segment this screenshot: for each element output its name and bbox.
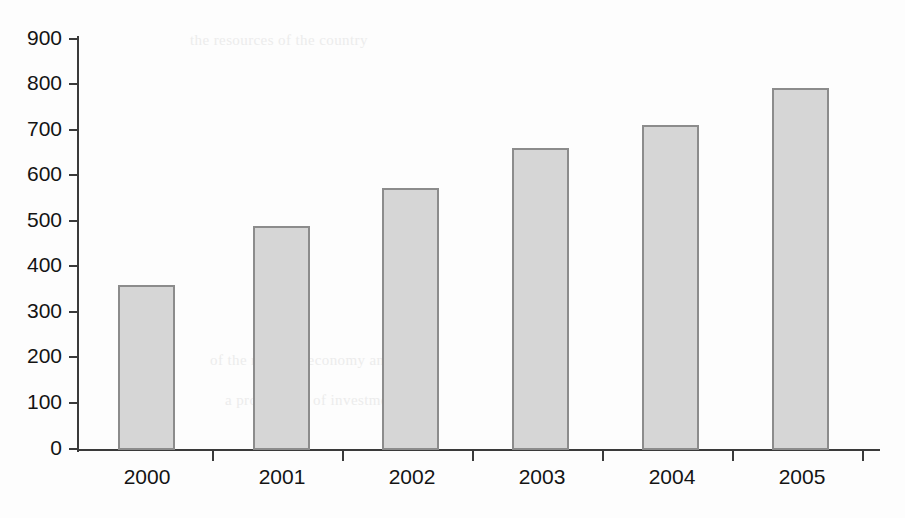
y-axis-tick: 400	[69, 265, 78, 267]
y-axis-tick-label: 100	[27, 391, 62, 412]
x-axis-label-2004: 2004	[642, 466, 702, 488]
bar-2001	[253, 226, 310, 450]
bar-chart-figure: the resources of the country of the regi…	[0, 0, 905, 518]
x-axis-label-2005: 2005	[772, 466, 832, 488]
y-axis-tick-label: 900	[27, 27, 62, 48]
plot-area: 0 100 200 300 400 500 600 700 800 900	[78, 38, 880, 450]
bar-2002	[382, 188, 439, 450]
y-axis-tick: 300	[69, 311, 78, 313]
y-axis-tick: 600	[69, 174, 78, 176]
x-axis-label-2002: 2002	[382, 466, 442, 488]
y-axis-tick-label: 700	[27, 118, 62, 139]
y-axis-tick-label: 800	[27, 72, 62, 93]
x-axis-tick	[862, 450, 864, 461]
y-axis-tick-label: 200	[27, 345, 62, 366]
y-axis-tick-label: 300	[27, 300, 62, 321]
y-axis-tick: 800	[69, 83, 78, 85]
y-axis-tick-label: 0	[50, 437, 62, 458]
bar-2003	[512, 148, 569, 450]
x-axis-tick	[602, 450, 604, 461]
y-axis-tick-label: 500	[27, 209, 62, 230]
y-axis-tick: 700	[69, 129, 78, 131]
bar-2005	[772, 88, 829, 450]
x-axis-tick	[732, 450, 734, 461]
x-axis-tick	[342, 450, 344, 461]
x-axis-label-2003: 2003	[512, 466, 572, 488]
y-axis-tick: 100	[69, 402, 78, 404]
x-axis-label-2001: 2001	[252, 466, 312, 488]
y-axis-tick-label: 600	[27, 163, 62, 184]
x-axis-label-2000: 2000	[117, 466, 177, 488]
y-axis-tick: 200	[69, 356, 78, 358]
x-axis-tick	[472, 450, 474, 461]
y-axis-tick: 500	[69, 220, 78, 222]
y-axis-tick: 0	[69, 448, 78, 450]
y-axis-tick-label: 400	[27, 254, 62, 275]
bar-2000	[118, 285, 175, 450]
x-axis-tick	[212, 450, 214, 461]
y-axis-tick: 900	[69, 38, 78, 40]
bar-2004	[642, 125, 699, 450]
